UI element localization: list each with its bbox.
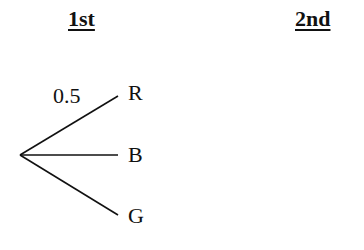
outcome-g: G (128, 203, 144, 229)
outcome-b: B (128, 142, 143, 168)
outcome-r: R (128, 80, 143, 106)
branch-g (20, 155, 118, 215)
probability-r: 0.5 (53, 83, 81, 109)
tree-branches (0, 0, 364, 250)
